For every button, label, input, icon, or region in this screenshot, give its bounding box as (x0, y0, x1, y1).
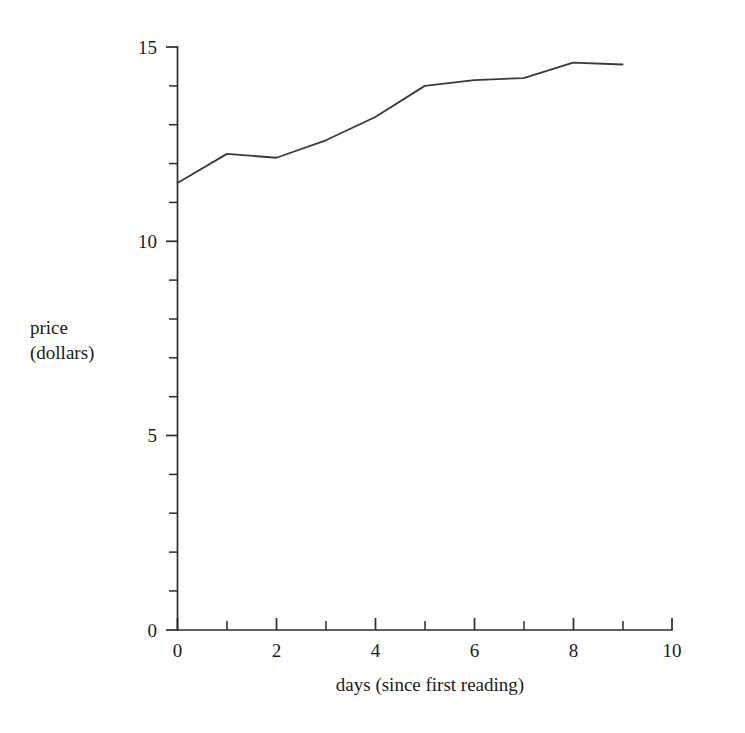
y-tick-label-5: 5 (148, 425, 158, 446)
y-tick-label-15: 15 (138, 37, 157, 58)
chart-background (0, 0, 745, 733)
x-tick-label-8: 8 (569, 640, 579, 661)
y-tick-label-0: 0 (148, 620, 158, 641)
x-tick-label-10: 10 (663, 640, 682, 661)
x-tick-label-4: 4 (371, 640, 381, 661)
chart-figure: 15 10 5 0 0 2 4 6 8 10 price (dollars) d… (0, 0, 745, 733)
x-tick-label-0: 0 (173, 640, 183, 661)
x-axis-title: days (since first reading) (336, 674, 524, 696)
y-tick-label-10: 10 (138, 231, 157, 252)
y-axis-title-line1: price (30, 317, 68, 338)
y-axis-title-line2: (dollars) (30, 342, 94, 364)
x-tick-label-2: 2 (272, 640, 282, 661)
line-chart-canvas: 15 10 5 0 0 2 4 6 8 10 price (dollars) d… (0, 0, 745, 733)
x-tick-label-6: 6 (470, 640, 480, 661)
